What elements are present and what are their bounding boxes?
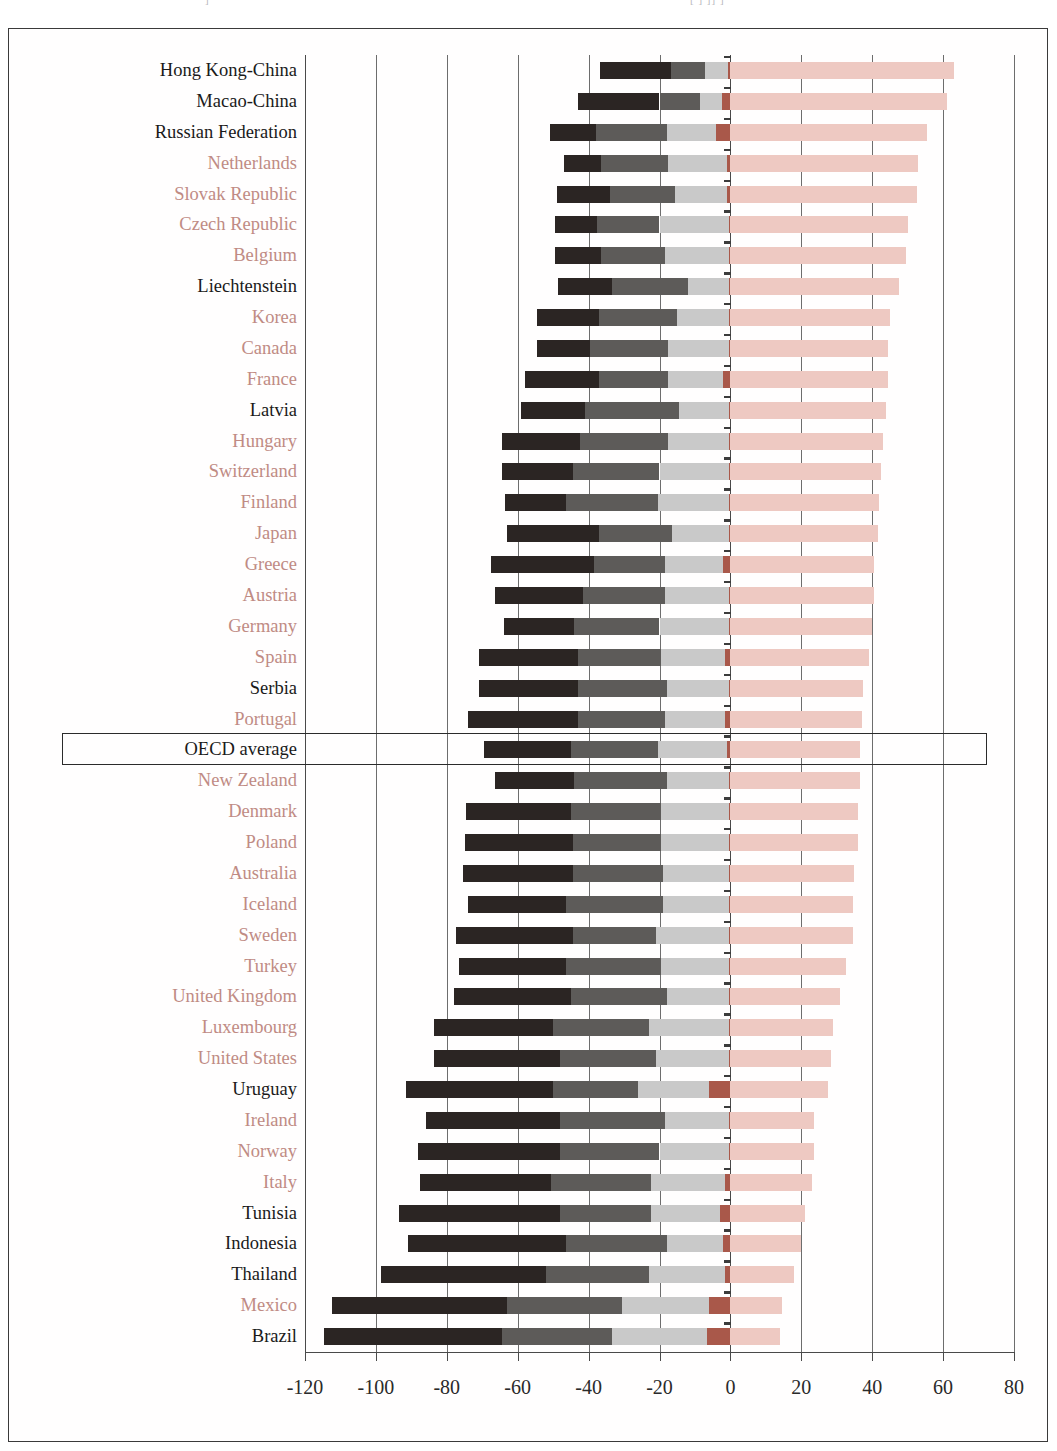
row-label-brazil: Brazil <box>27 1325 297 1347</box>
oecd-average-highlight-box <box>62 733 987 765</box>
tick--60 <box>518 1352 519 1361</box>
chart-row: Tunisia <box>0 1198 1057 1229</box>
zero-axis-notch <box>724 396 731 398</box>
bar-segment-level-1 <box>566 494 658 511</box>
bar-segment-below-level-1 <box>495 772 575 789</box>
row-label-serbia: Serbia <box>27 677 297 699</box>
bar-segment-level-4-and-above <box>730 278 898 295</box>
row-label-mexico: Mexico <box>27 1294 297 1316</box>
chart-row: Korea <box>0 302 1057 333</box>
bar-segment-below-level-1 <box>578 93 660 110</box>
bar-segment-level-4-and-above <box>730 62 953 79</box>
bar-segment-level-3 <box>722 93 731 110</box>
bar-segment-level-4-and-above <box>730 433 882 450</box>
tick-label--80: -80 <box>407 1376 487 1399</box>
row-label-italy: Italy <box>27 1171 297 1193</box>
chart-row: United Kingdom <box>0 981 1057 1012</box>
row-label-switzerland: Switzerland <box>27 460 297 482</box>
zero-axis-notch <box>724 982 731 984</box>
zero-axis-notch <box>724 1013 731 1015</box>
bar-segment-below-level-1 <box>600 62 671 79</box>
bar-segment-level-4-and-above <box>730 1050 831 1067</box>
row-label-finland: Finland <box>27 491 297 513</box>
bar-segment-level-1 <box>574 618 659 635</box>
bar-segment-level-4-and-above <box>730 340 888 357</box>
row-label-united-kingdom: United Kingdom <box>27 985 297 1007</box>
chart-row: Belgium <box>0 240 1057 271</box>
chart-row: Brazil <box>0 1321 1057 1352</box>
row-label-turkey: Turkey <box>27 955 297 977</box>
zero-axis-notch <box>724 210 731 212</box>
bar-segment-level-4-and-above <box>730 1143 813 1160</box>
bar-segment-level-2 <box>667 1235 724 1252</box>
bar-segment-below-level-1 <box>468 896 565 913</box>
chart-row: Mexico <box>0 1290 1057 1321</box>
bar-segment-level-2 <box>688 278 729 295</box>
zero-axis-notch <box>724 303 731 305</box>
chart-row: Indonesia <box>0 1228 1057 1259</box>
chart-row: Luxembourg <box>0 1012 1057 1043</box>
bar-segment-below-level-1 <box>406 1081 553 1098</box>
zero-axis-notch <box>724 1075 731 1077</box>
chart-row: Norway <box>0 1136 1057 1167</box>
chart-row: Italy <box>0 1167 1057 1198</box>
bar-segment-level-1 <box>560 1050 656 1067</box>
bar-segment-level-2 <box>660 1143 729 1160</box>
row-label-hong-kong-china: Hong Kong-China <box>27 59 297 81</box>
bar-segment-below-level-1 <box>491 556 594 573</box>
bar-segment-below-level-1 <box>434 1019 553 1036</box>
chart-row: Spain <box>0 642 1057 673</box>
row-label-denmark: Denmark <box>27 800 297 822</box>
chart-row: Finland <box>0 487 1057 518</box>
bar-segment-below-level-1 <box>459 958 565 975</box>
zero-axis-notch <box>724 272 731 274</box>
zero-axis-notch <box>724 365 731 367</box>
chart-row: Hungary <box>0 426 1057 457</box>
row-label-australia: Australia <box>27 862 297 884</box>
row-label-czech-republic: Czech Republic <box>27 213 297 235</box>
zero-axis-notch <box>724 1291 731 1293</box>
bar-segment-level-1 <box>566 958 662 975</box>
bar-segment-level-4-and-above <box>730 988 840 1005</box>
bar-segment-level-2 <box>660 618 729 635</box>
bar-segment-below-level-1 <box>420 1174 551 1191</box>
bar-segment-level-1 <box>601 155 668 172</box>
chart-row: Australia <box>0 858 1057 889</box>
bar-segment-level-2 <box>667 772 729 789</box>
tick--120 <box>305 1352 306 1361</box>
chart-row: Japan <box>0 518 1057 549</box>
bar-segment-level-2 <box>668 155 726 172</box>
zero-axis-notch <box>724 581 731 583</box>
bar-segment-level-2 <box>660 216 729 233</box>
bar-segment-level-2 <box>661 834 728 851</box>
bar-segment-level-2 <box>661 649 725 666</box>
bar-segment-below-level-1 <box>454 988 571 1005</box>
bar-segment-level-2 <box>612 1328 708 1345</box>
bar-segment-level-2 <box>656 1050 729 1067</box>
bar-segment-level-1 <box>578 711 665 728</box>
bar-segment-below-level-1 <box>502 463 573 480</box>
row-label-france: France <box>27 368 297 390</box>
bar-segment-level-3 <box>707 1328 730 1345</box>
bar-segment-level-4-and-above <box>730 834 858 851</box>
bar-segment-level-4-and-above <box>730 1297 781 1314</box>
zero-axis-notch <box>724 149 731 151</box>
bar-segment-level-2 <box>622 1297 709 1314</box>
bar-segment-level-1 <box>671 62 705 79</box>
bar-segment-level-2 <box>663 865 729 882</box>
row-label-austria: Austria <box>27 584 297 606</box>
bar-segment-level-3 <box>716 124 730 141</box>
bar-segment-level-1 <box>596 124 667 141</box>
zero-axis-notch <box>724 519 731 521</box>
bar-segment-level-4-and-above <box>730 124 927 141</box>
bar-segment-level-1 <box>594 556 665 573</box>
bar-segment-level-1 <box>590 340 668 357</box>
row-label-iceland: Iceland <box>27 893 297 915</box>
bar-segment-level-4-and-above <box>730 711 861 728</box>
bar-segment-below-level-1 <box>463 865 573 882</box>
row-label-uruguay: Uruguay <box>27 1078 297 1100</box>
bar-segment-below-level-1 <box>558 278 611 295</box>
bar-segment-level-4-and-above <box>730 494 879 511</box>
bar-segment-level-4-and-above <box>730 402 886 419</box>
zero-axis-notch <box>724 1106 731 1108</box>
